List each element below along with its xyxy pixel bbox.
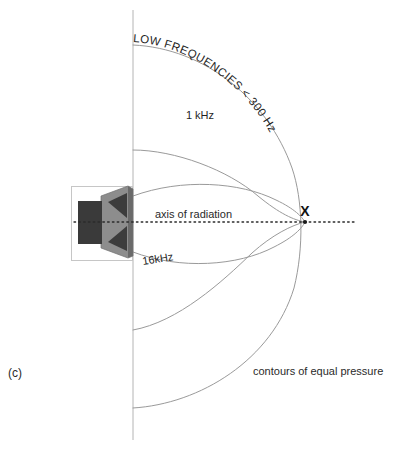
- label-16khz: 16kHz: [141, 250, 174, 267]
- label-point-x: X: [300, 203, 310, 219]
- figure-root: LOW FREQUENCIES < 300 Hz 1 kHz 16kHz axi…: [0, 0, 394, 455]
- label-axis-of-radiation: axis of radiation: [155, 208, 232, 220]
- point-x-marker-dot: [303, 220, 307, 224]
- directivity-diagram: LOW FREQUENCIES < 300 Hz 1 kHz 16kHz axi…: [0, 0, 394, 455]
- label-panel: (c): [8, 366, 22, 380]
- contour-low-frequency: [133, 45, 301, 408]
- label-1khz: 1 kHz: [186, 109, 214, 121]
- label-caption: contours of equal pressure: [253, 365, 383, 377]
- contour-1khz: [133, 150, 305, 330]
